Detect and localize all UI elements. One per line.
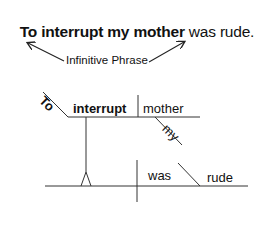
pedestal-icon (81, 172, 91, 186)
word-rude: rude (207, 170, 233, 185)
word-interrupt: interrupt (73, 101, 126, 116)
arrow-left (28, 43, 64, 61)
word-mother: mother (143, 101, 183, 116)
arrow-right (149, 42, 184, 62)
predicate-slant-line (178, 163, 200, 186)
word-was: was (148, 168, 171, 183)
